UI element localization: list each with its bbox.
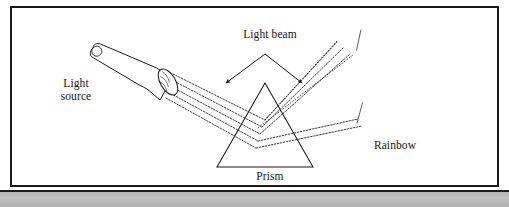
label-light-source: Light source [37,77,115,103]
light-beam-arrows [226,54,302,83]
label-light-beam: Light beam [215,28,325,41]
prism-triangle [217,83,313,167]
label-prism: Prism [220,170,320,183]
figure-page: Light source Light beam Prism Rainbow [0,0,509,207]
rainbow-arc [345,27,439,126]
label-rainbow: Rainbow [345,139,445,152]
page-bottom-bar [0,190,509,207]
incident-light-rays [166,74,265,148]
